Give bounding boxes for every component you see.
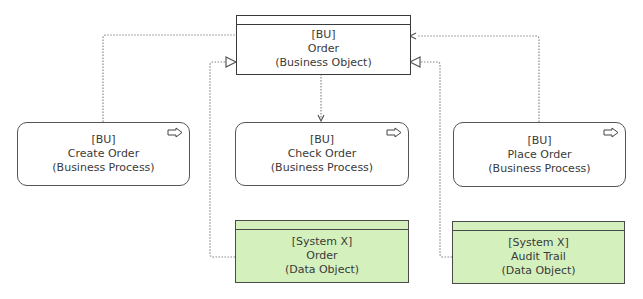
name-label: Order [308, 42, 339, 56]
type-label: (Business Process) [271, 161, 373, 175]
name-label: Create Order [68, 147, 139, 161]
owner-label: [System X] [508, 236, 569, 250]
type-label: (Data Object) [501, 264, 575, 278]
edge-order-data [210, 62, 235, 257]
process-arrow-icon [386, 127, 402, 138]
type-label: (Business Object) [275, 56, 371, 70]
audit-trail-data-object[interactable]: [System X] Audit Trail (Data Object) [452, 221, 625, 284]
name-label: Place Order [507, 148, 571, 162]
owner-label: [BU] [310, 133, 334, 147]
process-arrow-icon [167, 127, 183, 138]
triangle-head-right [410, 57, 420, 67]
edge-place-order [418, 36, 539, 122]
type-label: (Business Process) [52, 161, 154, 175]
object-header-bar [453, 222, 624, 231]
name-label: Audit Trail [511, 250, 566, 264]
object-header-bar [237, 16, 410, 25]
edge-create-order [103, 35, 236, 122]
process-arrow-icon [603, 127, 619, 138]
place-order-process[interactable]: [BU] Place Order (Business Process) [453, 122, 626, 187]
owner-label: [BU] [91, 133, 115, 147]
order-business-object[interactable]: [BU] Order (Business Object) [236, 15, 411, 75]
name-label: Order [306, 249, 337, 263]
type-label: (Business Process) [488, 162, 590, 176]
owner-label: [BU] [311, 28, 335, 42]
owner-label: [BU] [527, 134, 551, 148]
name-label: Check Order [288, 147, 357, 161]
edge-audit-trail [420, 62, 452, 257]
object-header-bar [236, 221, 408, 230]
arrow-head-check [318, 115, 324, 121]
owner-label: [System X] [292, 235, 353, 249]
triangle-head-left [226, 57, 236, 67]
check-order-process[interactable]: [BU] Check Order (Business Process) [235, 122, 409, 186]
type-label: (Data Object) [285, 263, 359, 277]
create-order-process[interactable]: [BU] Create Order (Business Process) [17, 122, 190, 186]
order-data-object[interactable]: [System X] Order (Data Object) [235, 220, 409, 283]
